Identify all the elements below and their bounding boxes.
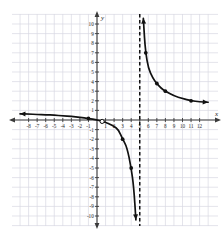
- marked-point: [129, 166, 133, 170]
- y-tick-label: 6: [91, 59, 94, 65]
- x-tick-label: 9: [173, 123, 176, 129]
- y-tick-label: 7: [91, 50, 94, 56]
- x-tick-label: 4: [130, 123, 133, 129]
- x-tick-label: 12: [197, 123, 203, 129]
- y-tick-label: -10: [87, 213, 94, 219]
- x-tick-label: -7: [35, 123, 40, 129]
- x-tick-label: 3: [121, 123, 124, 129]
- marked-point: [87, 116, 91, 120]
- y-tick-label: -1: [89, 127, 94, 133]
- y-tick-label: 4: [91, 79, 94, 85]
- y-tick-label: -4: [89, 155, 94, 161]
- x-tick-label: 6: [147, 123, 150, 129]
- y-tick-label: 10: [89, 21, 95, 27]
- x-tick-label: -2: [78, 123, 83, 129]
- x-tick-label: 1: [104, 123, 107, 129]
- open-hole-point: [100, 119, 104, 123]
- x-tick-label: -3: [69, 123, 74, 129]
- x-tick-label: -4: [61, 123, 66, 129]
- y-tick-label: -7: [89, 184, 94, 190]
- y-tick-label: -3: [89, 146, 94, 152]
- marked-point: [155, 82, 159, 86]
- y-tick-label: -2: [89, 136, 94, 142]
- graph-container: -8-7-6-5-4-3-2-1123456789101112-10-9-8-7…: [0, 0, 223, 233]
- marked-point: [189, 99, 193, 103]
- y-tick-label: -9: [89, 203, 94, 209]
- x-tick-label: 10: [180, 123, 186, 129]
- marked-point: [121, 137, 125, 141]
- y-tick-label: -6: [89, 175, 94, 181]
- x-tick-label: -6: [44, 123, 49, 129]
- y-tick-label: 8: [91, 40, 94, 46]
- x-tick-label: -5: [52, 123, 57, 129]
- x-tick-label: -8: [26, 123, 31, 129]
- x-tick-label: 8: [164, 123, 167, 129]
- x-tick-label: 7: [156, 123, 159, 129]
- x-tick-label: 11: [189, 123, 194, 129]
- y-tick-label: 9: [91, 31, 94, 37]
- marked-point: [144, 51, 148, 55]
- coordinate-plane-graph: -8-7-6-5-4-3-2-1123456789101112-10-9-8-7…: [0, 0, 223, 233]
- y-tick-label: 3: [91, 88, 94, 94]
- y-tick-label: 5: [91, 69, 94, 75]
- y-tick-label: -8: [89, 194, 94, 200]
- y-tick-label: 2: [91, 98, 94, 104]
- y-tick-label: 1: [91, 107, 94, 113]
- plot-background: [0, 0, 223, 233]
- y-tick-label: -5: [89, 165, 94, 171]
- marked-point: [164, 89, 168, 93]
